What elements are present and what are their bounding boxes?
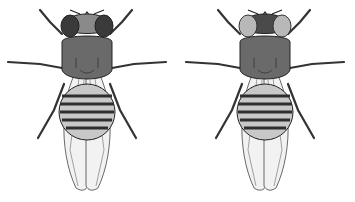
eye-left [61,15,79,37]
eye-right [95,15,113,37]
eye-left [239,15,257,37]
eye-right [273,15,291,37]
fly-illustration-dark-eyes [0,0,177,202]
fly-illustration-light-eyes [178,0,355,202]
